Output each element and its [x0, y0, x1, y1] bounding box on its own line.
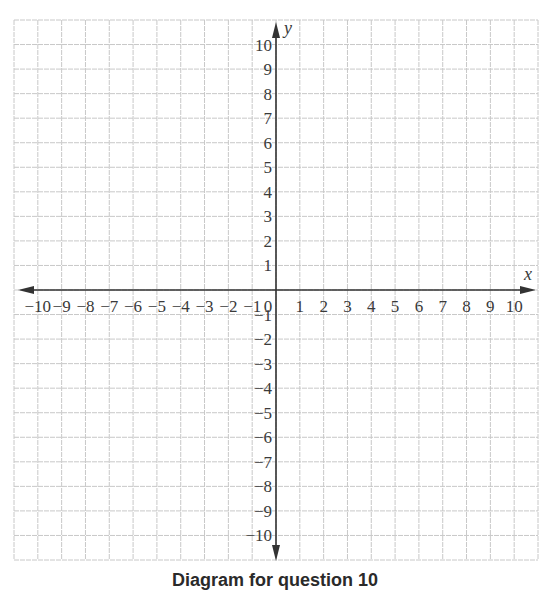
x-tick-label: 7 [438, 297, 447, 316]
y-tick-label: −6 [254, 428, 272, 447]
x-tick-label: −8 [76, 297, 94, 316]
y-tick-label: −9 [254, 502, 272, 521]
diagram-caption: Diagram for question 10 [0, 570, 550, 591]
y-tick-label: −8 [254, 477, 272, 496]
y-tick-label: −1 [254, 306, 272, 325]
x-axis-name: x [523, 264, 532, 284]
x-tick-label: 5 [391, 297, 400, 316]
y-tick-label: 8 [264, 85, 273, 104]
y-axis-down-arrow-icon [272, 545, 280, 561]
x-tick-label: 10 [506, 297, 523, 316]
x-tick-label: 3 [343, 297, 352, 316]
x-tick-label: −6 [124, 297, 142, 316]
y-tick-label: −7 [254, 453, 273, 472]
x-axis-left-arrow-icon [18, 286, 34, 294]
y-tick-label: −4 [254, 379, 273, 398]
x-tick-label: 6 [415, 297, 424, 316]
x-tick-label: −4 [172, 297, 191, 316]
x-tick-label: 1 [296, 297, 305, 316]
x-tick-label: 4 [367, 297, 376, 316]
y-axis-up-arrow-icon [272, 22, 280, 38]
y-tick-label: 5 [264, 158, 273, 177]
y-tick-label: 6 [264, 134, 273, 153]
y-tick-label: 3 [264, 207, 273, 226]
x-tick-label: 2 [319, 297, 328, 316]
x-tick-label: −5 [148, 297, 166, 316]
x-tick-label: −10 [25, 297, 52, 316]
y-axis-name: y [282, 18, 292, 38]
y-tick-label: −3 [254, 355, 272, 374]
x-tick-label: −3 [195, 297, 213, 316]
y-tick-label: 1 [264, 256, 273, 275]
y-tick-label: 7 [264, 109, 273, 128]
y-tick-label: −10 [245, 526, 272, 545]
y-tick-label: −2 [254, 330, 272, 349]
y-tick-label: 10 [255, 36, 272, 55]
y-tick-label: −5 [254, 404, 272, 423]
x-tick-label: 8 [462, 297, 471, 316]
x-tick-label: 9 [486, 297, 495, 316]
x-tick-label: −9 [53, 297, 71, 316]
y-tick-label: 2 [264, 232, 273, 251]
y-tick-label: 9 [264, 60, 273, 79]
y-tick-label: 4 [264, 183, 273, 202]
x-axis-right-arrow-icon [520, 286, 536, 294]
x-tick-label: −7 [100, 297, 119, 316]
x-tick-label: −2 [219, 297, 237, 316]
